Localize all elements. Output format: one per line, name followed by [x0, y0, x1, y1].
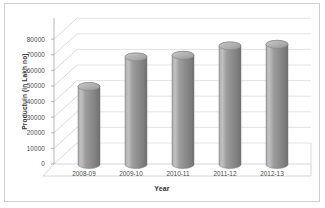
y-tick-label-60000: 60000	[11, 67, 45, 74]
bar-2010-11[interactable]	[172, 51, 194, 168]
y-tick-label-70000: 70000	[11, 51, 45, 58]
x-tick-label-2010-11: 2010-11	[155, 170, 201, 177]
y-tick-label-0: 0	[11, 160, 45, 167]
bar-2012-13[interactable]	[266, 40, 288, 168]
x-tick-label-2008-09: 2008-09	[61, 170, 107, 177]
x-tick-label-2011-12: 2011-12	[202, 170, 248, 177]
chart-depth-lines	[54, 18, 77, 164]
y-tick-label-30000: 30000	[11, 114, 45, 121]
chart-y-ticks	[51, 39, 54, 164]
chart-frame: 80000 70000 60000 50000 40000 30000 2000…	[4, 3, 320, 202]
bar-2009-10[interactable]	[125, 53, 147, 169]
y-tick-label-80000: 80000	[11, 36, 45, 43]
x-tick-label-2012-13: 2012-13	[249, 170, 295, 177]
x-tick-label-2009-10: 2009-10	[108, 170, 154, 177]
y-tick-label-50000: 50000	[11, 82, 45, 89]
y-tick-label-20000: 20000	[11, 129, 45, 136]
y-tick-label-40000: 40000	[11, 98, 45, 105]
bar-2008-09[interactable]	[78, 83, 100, 169]
y-axis-title: Productuin (in Lakh no)	[21, 37, 28, 147]
x-axis-title: Year	[5, 185, 319, 192]
chart-plot-area: 80000 70000 60000 50000 40000 30000 2000…	[5, 4, 319, 201]
bar-2011-12[interactable]	[219, 42, 241, 169]
y-tick-label-10000: 10000	[11, 145, 45, 152]
